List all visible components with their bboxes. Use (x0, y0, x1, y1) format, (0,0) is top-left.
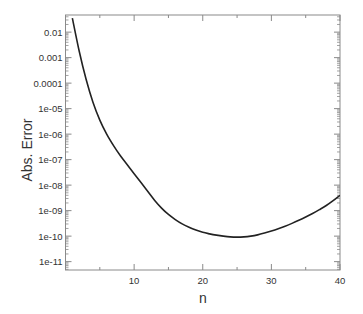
x-axis-label: n (199, 290, 207, 306)
y-tick-label: 1e-09 (38, 205, 62, 216)
data-series (72, 18, 340, 237)
x-tick-label: 30 (266, 275, 277, 286)
y-tick-label: 1e-06 (38, 129, 62, 140)
error-curve (72, 18, 340, 237)
y-tick-label: 1e-08 (38, 180, 62, 191)
y-tick-label: 1e-07 (38, 154, 62, 165)
y-tick-label: 0.0001 (33, 78, 62, 89)
x-tick-label: 40 (335, 275, 346, 286)
y-tick-label: 0.01 (44, 27, 63, 38)
y-tick-label: 1e-10 (38, 231, 62, 242)
x-tick-label: 10 (129, 275, 140, 286)
x-axis-ticks: 10203040 (100, 15, 345, 286)
y-axis-label: Abs. Error (19, 118, 35, 181)
chart: 10203040 0.010.0010.00011e-051e-061e-071… (0, 0, 363, 314)
x-tick-label: 20 (197, 275, 208, 286)
y-tick-label: 1e-05 (38, 103, 62, 114)
y-tick-label: 1e-11 (39, 256, 63, 267)
y-tick-label: 0.001 (39, 52, 63, 63)
